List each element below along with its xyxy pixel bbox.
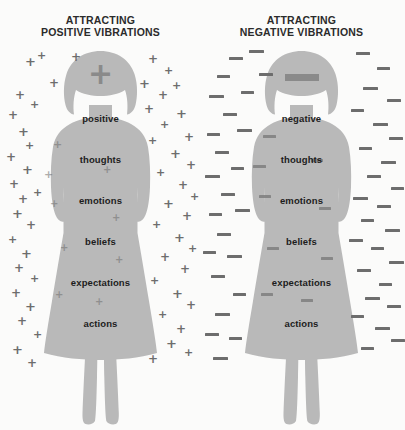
panel-title-negative: ATTRACTING NEGATIVE VIBRATIONS: [201, 14, 402, 38]
panel-negative: ATTRACTING NEGATIVE VIBRATIONS negative …: [201, 0, 402, 430]
panel-positive: ATTRACTING POSITIVE VIBRATIONS +++++++++…: [0, 0, 201, 430]
panel-title-positive: ATTRACTING POSITIVE VIBRATIONS: [0, 14, 201, 38]
figure-silhouette-positive: [0, 47, 201, 430]
woman-silhouette-icon: [0, 47, 201, 430]
figure-silhouette-negative: [201, 47, 402, 430]
woman-silhouette-icon: [201, 47, 402, 430]
